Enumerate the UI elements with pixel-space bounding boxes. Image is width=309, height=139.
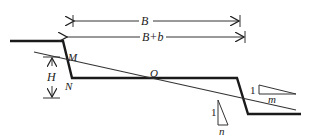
label-o-point: O [150, 67, 158, 79]
label-m-point: M [67, 51, 78, 63]
slope-n-rise: 1 [211, 106, 217, 118]
slope-m-triangle [259, 85, 296, 94]
slope-n-run: n [219, 125, 225, 137]
slope-n-triangle [218, 100, 228, 125]
cross-section-diagram: B B+b H M N O 1 m 1 n [0, 0, 309, 139]
slope-m-run: m [268, 93, 276, 105]
label-b: B [141, 14, 149, 28]
slope-m-rise: 1 [250, 84, 256, 96]
label-b-plus-b: B+b [142, 30, 163, 44]
label-h: H [46, 70, 57, 84]
label-n-point: N [64, 80, 73, 92]
diagram-canvas: B B+b H M N O 1 m 1 n [0, 0, 309, 139]
